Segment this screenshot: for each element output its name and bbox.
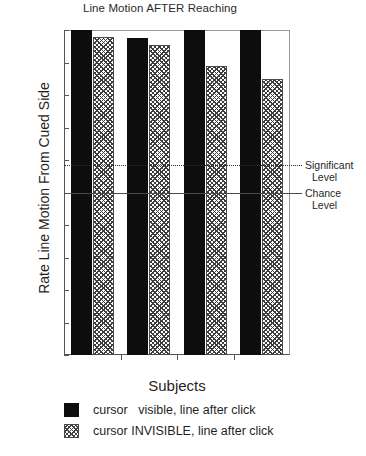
- chance-level-label: ChanceLevel: [305, 187, 366, 212]
- chart-title: Line Motion AFTER Reaching: [0, 2, 320, 14]
- bar-ss-series1: [127, 38, 148, 355]
- y-tick-mark: [64, 225, 69, 226]
- x-tick-mark: [177, 355, 178, 360]
- chance-level-label-line1: Chance: [305, 187, 341, 199]
- y-tick-mark: [64, 30, 69, 31]
- bar-ss-series2: [149, 45, 170, 355]
- y-tick-mark: [64, 95, 69, 96]
- x-tick-mark: [121, 355, 122, 360]
- bar-oh-series2: [93, 37, 114, 356]
- x-tick-mark: [234, 355, 235, 360]
- legend-item-1: cursor visible, line after click: [64, 399, 364, 420]
- legend-label-1: cursor visible, line after click: [93, 403, 256, 417]
- y-tick-mark: [64, 355, 69, 356]
- bar-sm-series2: [206, 66, 227, 355]
- significant-level-label-line1: Significant: [305, 159, 353, 171]
- significant-level-label-line2: Level: [305, 171, 366, 184]
- y-tick-mark: [64, 258, 69, 259]
- y-tick-mark: [64, 323, 69, 324]
- legend-swatch-hatched: [64, 424, 79, 438]
- y-tick-mark: [64, 63, 69, 64]
- significant-level-line: [64, 165, 302, 166]
- chart-legend: cursor visible, line after clickcursor I…: [64, 399, 364, 441]
- legend-label-2: cursor INVISIBLE, line after click: [93, 424, 274, 438]
- y-tick-mark: [64, 160, 69, 161]
- x-axis-title: Subjects: [64, 377, 290, 394]
- y-tick-mark: [64, 290, 69, 291]
- legend-swatch-solid: [64, 403, 79, 417]
- y-tick-mark: [64, 128, 69, 129]
- bar-mm-series2: [262, 79, 283, 355]
- y-axis-title: Rate Line Motion From Cued Side: [36, 58, 52, 318]
- legend-item-2: cursor INVISIBLE, line after click: [64, 420, 364, 441]
- chart-figure: Line Motion AFTER Reaching Rate Line Mot…: [0, 0, 366, 456]
- chance-level-line: [64, 193, 302, 194]
- significant-level-label: SignificantLevel: [305, 159, 366, 184]
- chance-level-label-line2: Level: [305, 199, 366, 212]
